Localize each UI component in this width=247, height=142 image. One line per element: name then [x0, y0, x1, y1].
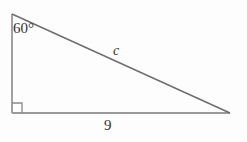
- base-length-label: 9: [104, 118, 112, 133]
- right-angle-marker-icon: [12, 103, 22, 113]
- triangle-drawing: [0, 0, 247, 142]
- right-triangle-figure: 60° c 9: [0, 0, 247, 142]
- hypotenuse-label: c: [113, 44, 119, 58]
- angle-label: 60°: [13, 21, 34, 36]
- hypotenuse: [12, 14, 230, 113]
